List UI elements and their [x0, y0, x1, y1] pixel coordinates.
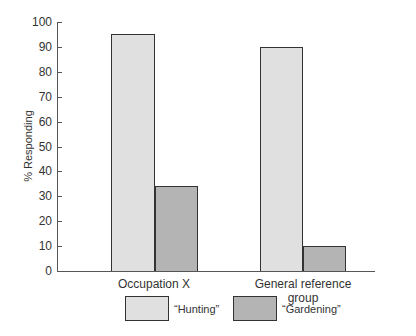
legend-label-gardening: “Gardening” [282, 303, 341, 315]
y-tick-label: 100 [22, 16, 52, 28]
y-tick-label: 10 [22, 240, 52, 252]
y-tick-label: 20 [22, 215, 52, 227]
y-tick [57, 72, 62, 73]
bar-hunting-occupation-x [111, 34, 155, 271]
legend-swatch-hunting [125, 296, 169, 321]
y-tick [57, 271, 62, 272]
y-tick-label: 30 [22, 190, 52, 202]
y-tick [57, 122, 62, 123]
y-tick-label: 0 [22, 265, 52, 277]
y-tick-label: 80 [22, 66, 52, 78]
y-tick-label: 50 [22, 141, 52, 153]
y-tick [57, 171, 62, 172]
bar-gardening-general-reference [303, 246, 346, 271]
y-tick [57, 97, 62, 98]
legend-label-hunting: “Hunting” [174, 303, 219, 315]
y-tick-label: 90 [22, 41, 52, 53]
y-tick [57, 47, 62, 48]
y-tick [57, 22, 62, 23]
y-tick-label: 70 [22, 91, 52, 103]
legend-swatch-gardening [233, 296, 277, 321]
bar-gardening-occupation-x [155, 186, 198, 271]
category-label-occupation-x: Occupation X [104, 277, 204, 291]
y-tick-label: 40 [22, 165, 52, 177]
x-axis-line [57, 271, 375, 272]
y-tick [57, 147, 62, 148]
bar-hunting-general-reference [260, 47, 303, 271]
y-tick-label: 60 [22, 116, 52, 128]
y-tick [57, 246, 62, 247]
y-tick [57, 196, 62, 197]
y-tick [57, 221, 62, 222]
